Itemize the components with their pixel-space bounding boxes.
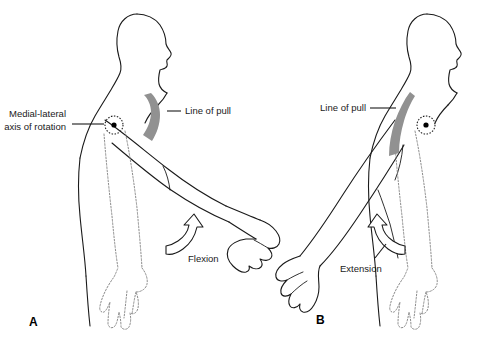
axis-of-rotation-dot-b	[423, 122, 428, 127]
axis-of-rotation-dot-a	[111, 122, 116, 127]
flexion-label-a: Flexion	[188, 253, 219, 264]
panel-label-a: A	[29, 315, 38, 329]
figure-canvas: Medial-lateral axis of rotation Line of …	[0, 0, 501, 338]
line-of-pull-label-a: Line of pull	[185, 105, 231, 116]
extension-label-b: Extension	[340, 263, 382, 274]
panel-label-b: B	[316, 313, 325, 327]
axis-label-line1-a: Medial-lateral	[9, 108, 66, 119]
axis-label-line2-a: axis of rotation	[4, 121, 66, 132]
anatomy-figure: Medial-lateral axis of rotation Line of …	[0, 0, 501, 338]
figure-background	[0, 0, 501, 338]
line-of-pull-label-b: Line of pull	[320, 102, 366, 113]
